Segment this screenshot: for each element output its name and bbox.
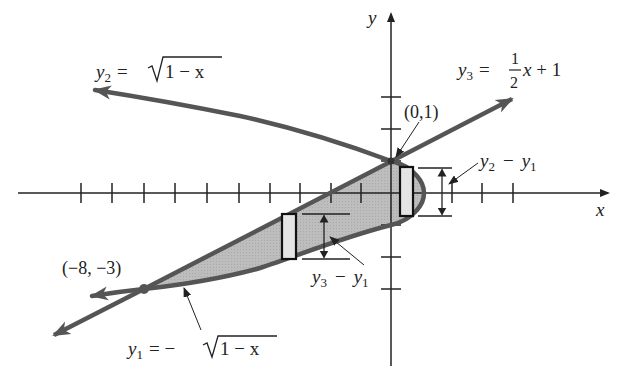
y-axis-label: y [366, 7, 377, 28]
label-y3-minus-y1: y3−y1 [310, 266, 369, 290]
point-label-0-1: (0,1) [404, 102, 439, 123]
strip-left [282, 214, 296, 259]
label-y3: y3= 1 2 x + 1 [456, 50, 561, 91]
label-y2-minus-y1: y2−y1 [478, 150, 537, 174]
pointer-y3-y1 [330, 237, 364, 265]
svg-text:y2=: y2= [94, 61, 128, 85]
pointer-y1 [184, 288, 201, 330]
point-neg8-neg3 [139, 284, 149, 294]
point-label-neg8-neg3: (−8, −3) [62, 258, 121, 279]
diagram-canvas: y x y2= 1 − x y3= 1 2 x + 1 y1= − 1 − x … [0, 0, 620, 381]
svg-text:y1= −: y1= − [126, 338, 175, 362]
svg-text:1 − x: 1 − x [165, 61, 205, 82]
point-0-1 [388, 158, 395, 165]
label-y2: y2= 1 − x [94, 57, 222, 85]
svg-text:y3=: y3= [456, 59, 490, 83]
pointer-y2-y1 [449, 163, 478, 184]
strip-right [400, 167, 413, 216]
line-y3-right [144, 99, 512, 289]
label-y1: y1= − 1 − x [126, 336, 277, 362]
svg-text:2: 2 [510, 74, 518, 91]
svg-text:1: 1 [511, 50, 519, 67]
x-axis-label: x [595, 199, 605, 220]
svg-text:x + 1: x + 1 [522, 59, 561, 80]
svg-text:1 − x: 1 − x [220, 338, 260, 359]
